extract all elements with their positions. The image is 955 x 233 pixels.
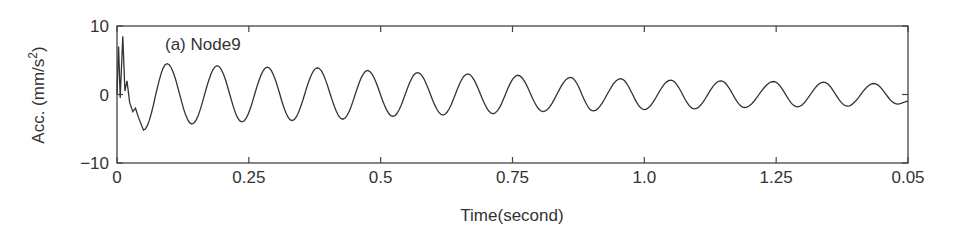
x-tick-label: 0.05 xyxy=(891,168,924,187)
x-tick-label: 0.75 xyxy=(496,168,529,187)
y-tick-label: 10 xyxy=(90,17,109,36)
chart: 00.250.50.751.01.250.05 −10010 (a) Node9… xyxy=(0,0,955,233)
y-axis-title: Acc. (mm/s2) xyxy=(26,46,48,143)
chart-title: (a) Node9 xyxy=(165,35,241,54)
x-tick-label: 0.25 xyxy=(232,168,265,187)
x-tick-label: 0.5 xyxy=(369,168,393,187)
x-axis-title: Time(second) xyxy=(460,206,563,225)
y-tick-label: 0 xyxy=(100,86,109,105)
x-tick-label: 1.25 xyxy=(760,168,793,187)
x-tick-label: 1.0 xyxy=(633,168,657,187)
x-tick-label: 0 xyxy=(112,168,121,187)
y-tick-label: −10 xyxy=(80,154,109,173)
